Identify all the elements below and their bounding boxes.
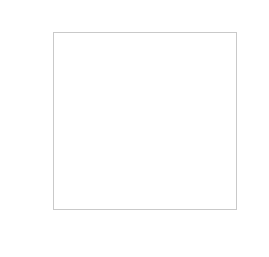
- normal-probability-plot: [0, 0, 269, 257]
- plot-canvas: [54, 33, 238, 211]
- plot-area: [53, 32, 237, 210]
